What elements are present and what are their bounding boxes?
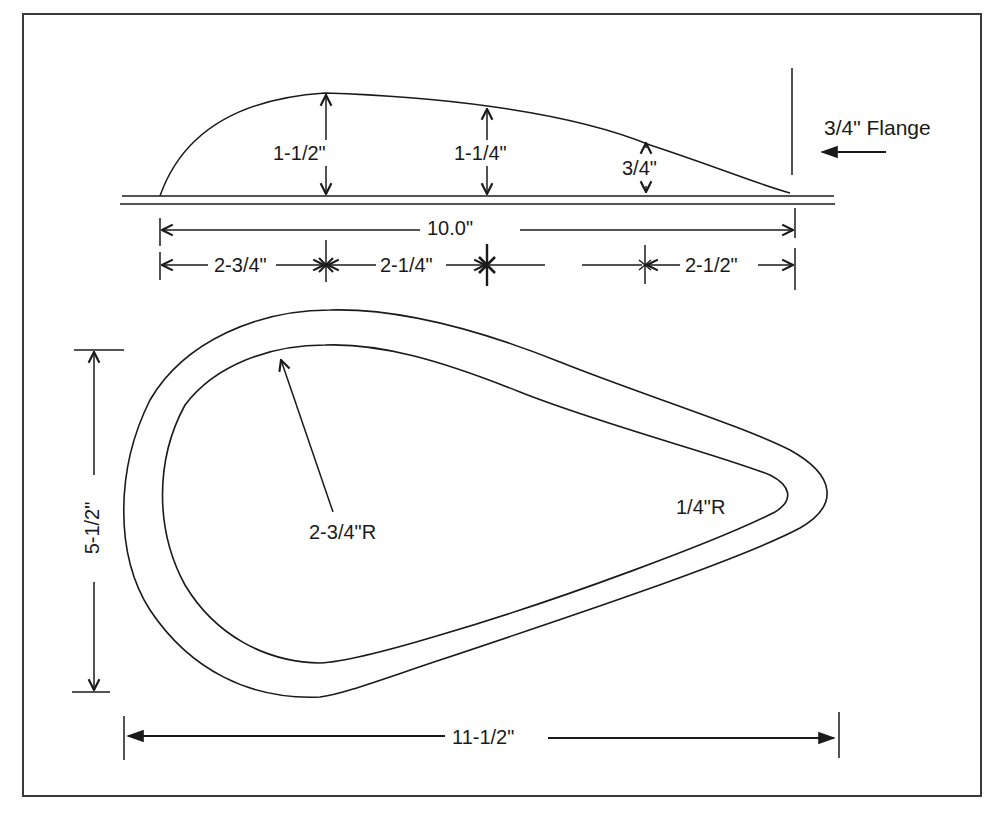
plan-dimensions (72, 350, 839, 760)
length-label: 11-1/2" (450, 727, 516, 747)
height-label-3: 3/4" (620, 158, 659, 178)
segment-label-2: 2-1/4" (378, 255, 435, 275)
flange-label: 3/4" Flange (822, 117, 933, 138)
large-radius-label: 2-3/4"R (307, 522, 378, 542)
height-label-1: 1-1/2" (271, 143, 328, 163)
segment-label-3: 2-1/2" (683, 255, 740, 275)
segment-label-1: 2-3/4" (212, 255, 269, 275)
small-radius-label: 1/4"R (674, 497, 727, 517)
height-label-2: 1-1/4" (452, 143, 509, 163)
width-label: 5-1/2" (82, 498, 102, 559)
overall-length-label: 10.0" (425, 218, 475, 238)
large-radius-leader (281, 360, 333, 512)
